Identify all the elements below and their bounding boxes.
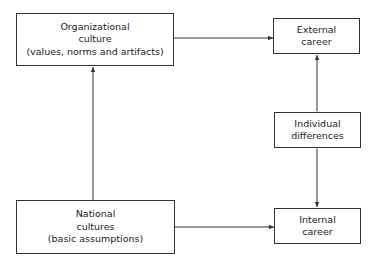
internal-career-line-2: career bbox=[302, 226, 332, 239]
national-cultures-box: National cultures (basic assumptions) bbox=[16, 200, 175, 254]
individual-differences-box: Individual differences bbox=[274, 112, 361, 148]
org-culture-line-1: Organizational bbox=[60, 21, 129, 34]
national-cultures-line-1: National bbox=[76, 208, 116, 221]
org-culture-line-3: (values, norms and artifacts) bbox=[26, 46, 163, 59]
national-cultures-line-2: cultures bbox=[76, 221, 114, 234]
org-culture-box: Organizational culture (values, norms an… bbox=[16, 13, 174, 66]
internal-career-box: Internal career bbox=[274, 208, 361, 244]
org-culture-line-2: culture bbox=[78, 33, 111, 46]
national-cultures-line-3: (basic assumptions) bbox=[48, 233, 143, 246]
individual-differences-line-2: differences bbox=[291, 130, 344, 143]
internal-career-line-1: Internal bbox=[299, 214, 336, 227]
individual-differences-line-1: Individual bbox=[294, 118, 340, 131]
external-career-line-1: External bbox=[297, 24, 336, 37]
external-career-line-2: career bbox=[301, 36, 331, 49]
external-career-box: External career bbox=[273, 18, 360, 54]
